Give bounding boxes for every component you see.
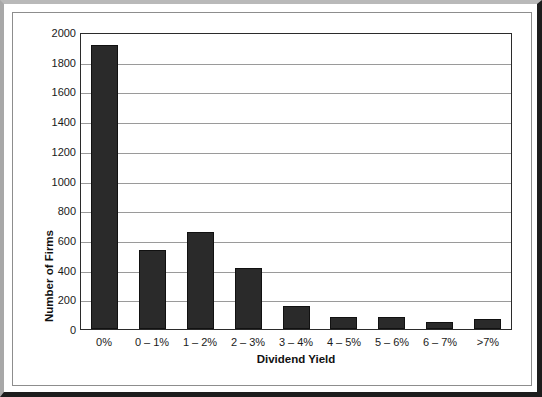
bar-slot bbox=[368, 34, 416, 329]
bar-slot bbox=[177, 34, 225, 329]
y-axis-tick-label: 200 bbox=[32, 295, 76, 305]
bar-chart: Number of Firms 200018001600140012001000… bbox=[0, 0, 542, 397]
y-axis-tick-label: 600 bbox=[32, 236, 76, 246]
bar-slot bbox=[272, 34, 320, 329]
x-axis-tick-label: 5 – 6% bbox=[368, 334, 416, 352]
y-axis-tick-label: 800 bbox=[32, 206, 76, 216]
y-axis-tick-label: 1200 bbox=[32, 147, 76, 157]
plot-area bbox=[80, 33, 512, 330]
y-axis-tick-label: 1400 bbox=[32, 117, 76, 127]
bar[interactable] bbox=[283, 306, 310, 329]
x-axis-tick-label: 2 – 3% bbox=[224, 334, 272, 352]
y-axis-tick-label: 2000 bbox=[32, 28, 76, 38]
bar[interactable] bbox=[330, 317, 357, 329]
x-axis-tick-label: 4 – 5% bbox=[320, 334, 368, 352]
x-axis-tick-label: >7% bbox=[464, 334, 512, 352]
bar-slot bbox=[224, 34, 272, 329]
x-axis-tick-label: 0 – 1% bbox=[128, 334, 176, 352]
bar[interactable] bbox=[139, 250, 166, 329]
x-axis-title: Dividend Yield bbox=[80, 353, 512, 365]
bar-slot bbox=[320, 34, 368, 329]
y-axis-tick-labels: 2000180016001400120010008006004002000 bbox=[26, 33, 76, 330]
bar-slot bbox=[81, 34, 129, 329]
bar-slot bbox=[129, 34, 177, 329]
x-axis-tick-label: 1 – 2% bbox=[176, 334, 224, 352]
x-axis-tick-label: 6 – 7% bbox=[416, 334, 464, 352]
bar[interactable] bbox=[426, 322, 453, 329]
x-axis-tick-label: 3 – 4% bbox=[272, 334, 320, 352]
y-axis-tick-label: 1600 bbox=[32, 87, 76, 97]
bars-container bbox=[81, 34, 511, 329]
x-axis-tick-label: 0% bbox=[80, 334, 128, 352]
bar[interactable] bbox=[378, 317, 405, 329]
y-axis-tick-label: 400 bbox=[32, 266, 76, 276]
bar[interactable] bbox=[187, 232, 214, 329]
bar[interactable] bbox=[235, 268, 262, 329]
bar-slot bbox=[463, 34, 511, 329]
x-axis-tick-labels: 0%0 – 1%1 – 2%2 – 3%3 – 4%4 – 5%5 – 6%6 … bbox=[80, 334, 512, 352]
bar[interactable] bbox=[474, 319, 501, 329]
y-axis-tick-label: 1000 bbox=[32, 177, 76, 187]
y-axis-tick-label: 1800 bbox=[32, 58, 76, 68]
y-axis-tick-label: 0 bbox=[32, 325, 76, 335]
bar[interactable] bbox=[91, 45, 118, 329]
bar-slot bbox=[415, 34, 463, 329]
